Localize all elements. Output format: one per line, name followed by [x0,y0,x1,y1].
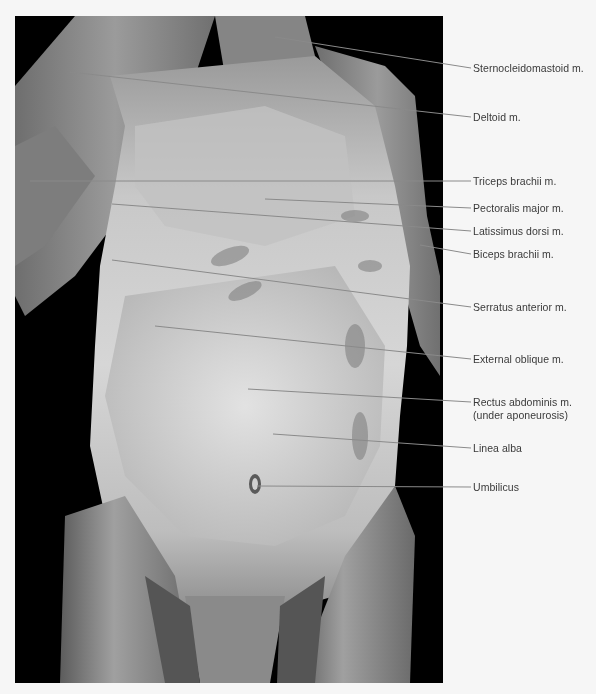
label-rectus-abdominis: Rectus abdominis m. [473,396,572,409]
label-pectoralis-major: Pectoralis major m. [473,202,564,215]
label-rectus-abdominis-note: (under aponeurosis) [473,409,568,422]
label-triceps-brachii: Triceps brachii m. [473,175,556,188]
label-external-oblique: External oblique m. [473,353,564,366]
label-biceps-brachii: Biceps brachii m. [473,248,554,261]
label-umbilicus: Umbilicus [473,481,519,494]
label-linea-alba: Linea alba [473,442,522,455]
torso-dissection-image [15,16,443,683]
label-sternocleidomastoid: Sternocleidomastoid m. [473,62,584,75]
dissection-photo [15,16,443,683]
anatomy-figure: Sternocleidomastoid m. Deltoid m. Tricep… [0,0,596,694]
label-deltoid: Deltoid m. [473,111,521,124]
label-serratus-anterior: Serratus anterior m. [473,301,567,314]
label-latissimus-dorsi: Latissimus dorsi m. [473,225,564,238]
